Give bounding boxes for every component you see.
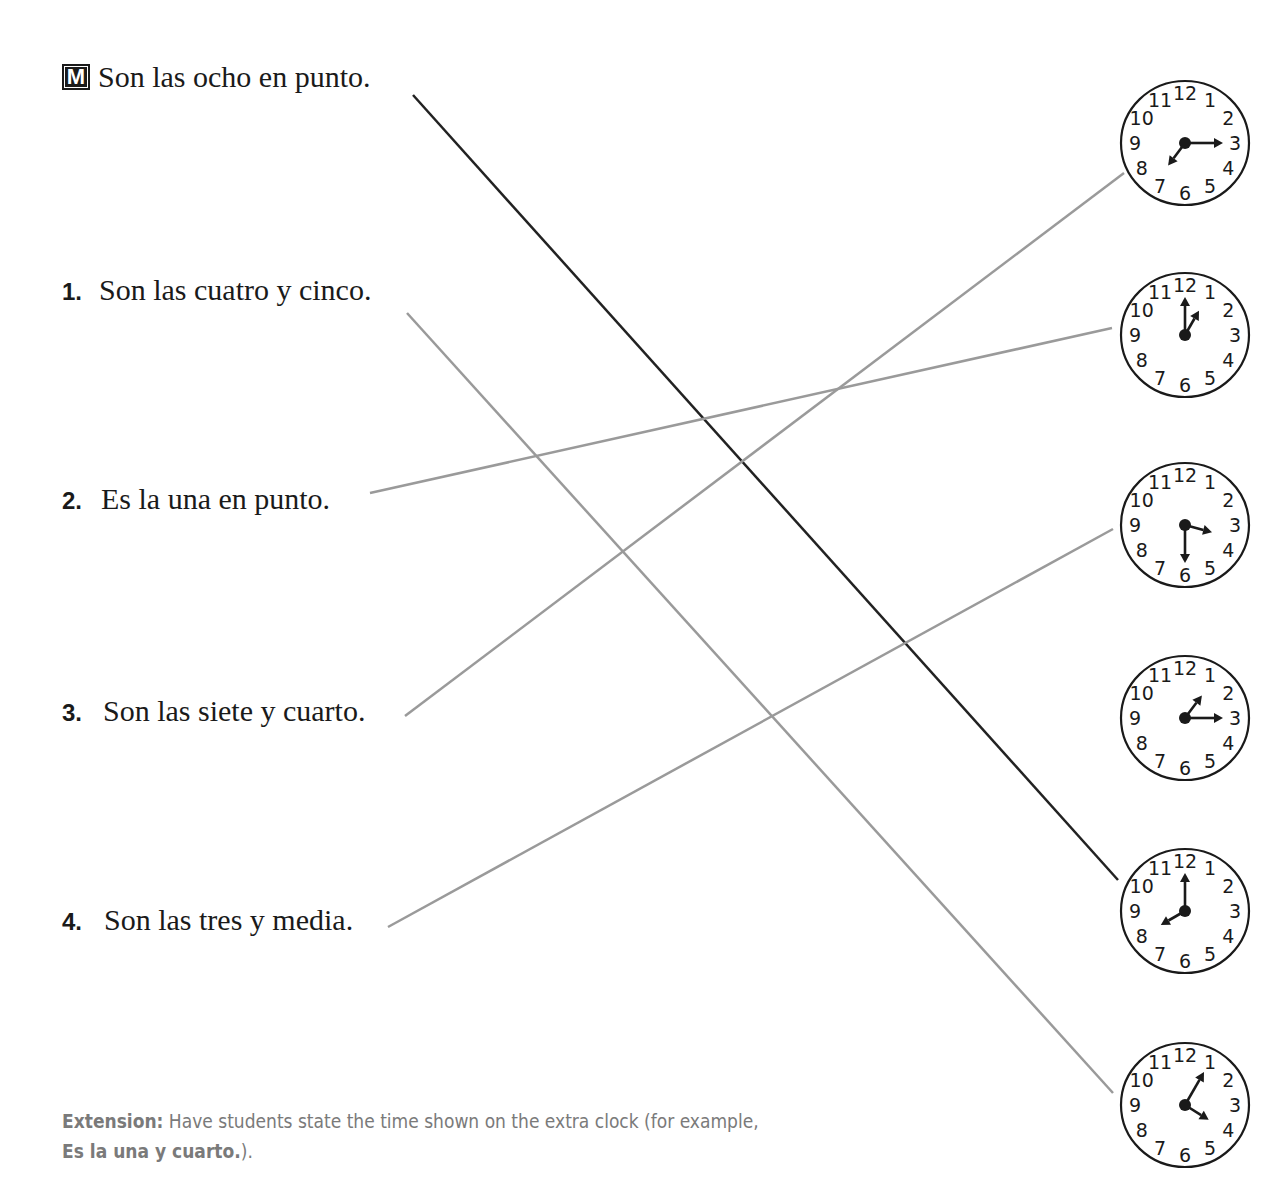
clock-6: 121234567891011 — [1115, 1035, 1255, 1175]
clock-1: 121234567891011 — [1115, 73, 1255, 213]
clock-numeral: 3 — [1229, 900, 1241, 922]
item-text: Es la una en punto. — [101, 482, 330, 516]
clock-numeral: 4 — [1222, 1119, 1234, 1141]
clock-numeral: 6 — [1179, 182, 1191, 204]
answer-lines — [0, 0, 1286, 1182]
clock-numeral: 11 — [1148, 471, 1172, 493]
item-text: Son las tres y media. — [104, 903, 353, 937]
clock-numeral: 1 — [1204, 857, 1216, 879]
extension-example: Es la una y cuarto. — [62, 1140, 241, 1162]
item-number: 1. — [62, 278, 82, 306]
clock-numeral: 1 — [1204, 664, 1216, 686]
clock-numeral: 7 — [1154, 943, 1166, 965]
clock-numeral: 8 — [1136, 349, 1148, 371]
line-model-to-clock-5 — [413, 95, 1118, 880]
clock-numeral: 6 — [1179, 374, 1191, 396]
extension-text: Have students state the time shown on th… — [163, 1110, 758, 1132]
line-item-4-to-clock-3 — [388, 529, 1113, 927]
clock-numeral: 8 — [1136, 157, 1148, 179]
item-text: Son las siete y cuarto. — [103, 694, 365, 728]
clock-numeral: 11 — [1148, 664, 1172, 686]
clock-numeral: 1 — [1204, 281, 1216, 303]
clock-numeral: 8 — [1136, 539, 1148, 561]
model-sentence: Son las ocho en punto. — [98, 60, 370, 94]
clock-numeral: 9 — [1129, 1094, 1141, 1116]
clock-numeral: 12 — [1173, 1044, 1197, 1066]
clock-numeral: 2 — [1222, 489, 1234, 511]
clock-numeral: 5 — [1204, 1137, 1216, 1159]
clock-numeral: 6 — [1179, 564, 1191, 586]
clock-numeral: 12 — [1173, 850, 1197, 872]
clock-center — [1179, 712, 1191, 724]
clock-numeral: 12 — [1173, 82, 1197, 104]
line-item-3-to-clock-1 — [405, 173, 1124, 716]
clock-numeral: 5 — [1204, 750, 1216, 772]
clock-numeral: 2 — [1222, 299, 1234, 321]
item-number: 4. — [62, 908, 82, 936]
clock-numeral: 7 — [1154, 1137, 1166, 1159]
clock-numeral: 9 — [1129, 514, 1141, 536]
clock-numeral: 6 — [1179, 950, 1191, 972]
clock-numeral: 9 — [1129, 132, 1141, 154]
clock-numeral: 12 — [1173, 657, 1197, 679]
clock-numeral: 4 — [1222, 925, 1234, 947]
clock-numeral: 2 — [1222, 1069, 1234, 1091]
clock-numeral: 7 — [1154, 557, 1166, 579]
clock-numeral: 5 — [1204, 943, 1216, 965]
clock-numeral: 3 — [1229, 132, 1241, 154]
clock-numeral: 9 — [1129, 324, 1141, 346]
clock-center — [1179, 519, 1191, 531]
clock-numeral: 4 — [1222, 157, 1234, 179]
clock-numeral: 12 — [1173, 274, 1197, 296]
clock-numeral: 5 — [1204, 175, 1216, 197]
clock-4: 121234567891011 — [1115, 648, 1255, 788]
clock-numeral: 3 — [1229, 707, 1241, 729]
clock-numeral: 9 — [1129, 900, 1141, 922]
clock-numeral: 2 — [1222, 107, 1234, 129]
clock-numeral: 6 — [1179, 757, 1191, 779]
clock-numeral: 7 — [1154, 750, 1166, 772]
clock-numeral: 7 — [1154, 175, 1166, 197]
clock-numeral: 3 — [1229, 1094, 1241, 1116]
clock-numeral: 6 — [1179, 1144, 1191, 1166]
clock-numeral: 4 — [1222, 349, 1234, 371]
model-text: Son las ocho en punto. — [98, 60, 370, 93]
clock-numeral: 7 — [1154, 367, 1166, 389]
clock-numeral: 1 — [1204, 471, 1216, 493]
clock-2: 121234567891011 — [1115, 265, 1255, 405]
clock-center — [1179, 137, 1191, 149]
model-badge: M — [62, 64, 90, 90]
extension-note: Extension: Have students state the time … — [62, 1106, 942, 1166]
clock-5: 121234567891011 — [1115, 841, 1255, 981]
clock-numeral: 1 — [1204, 1051, 1216, 1073]
extension-closing: ). — [241, 1140, 253, 1162]
clock-center — [1179, 1099, 1191, 1111]
clock-numeral: 11 — [1148, 281, 1172, 303]
item-number: 2. — [62, 487, 82, 515]
clock-numeral: 12 — [1173, 464, 1197, 486]
clock-numeral: 9 — [1129, 707, 1141, 729]
clock-center — [1179, 329, 1191, 341]
clock-numeral: 11 — [1148, 1051, 1172, 1073]
clock-numeral: 4 — [1222, 732, 1234, 754]
clock-numeral: 3 — [1229, 514, 1241, 536]
clock-numeral: 1 — [1204, 89, 1216, 111]
clock-numeral: 5 — [1204, 367, 1216, 389]
line-item-2-to-clock-2 — [370, 328, 1112, 493]
clock-center — [1179, 905, 1191, 917]
clock-numeral: 4 — [1222, 539, 1234, 561]
clock-numeral: 8 — [1136, 732, 1148, 754]
clock-numeral: 3 — [1229, 324, 1241, 346]
clock-numeral: 8 — [1136, 1119, 1148, 1141]
clock-numeral: 2 — [1222, 875, 1234, 897]
item-text: Son las cuatro y cinco. — [99, 273, 371, 307]
extension-label: Extension: — [62, 1110, 163, 1132]
clock-numeral: 11 — [1148, 857, 1172, 879]
clock-3: 121234567891011 — [1115, 455, 1255, 595]
line-item-1-to-clock-6 — [407, 313, 1113, 1093]
item-number: 3. — [62, 699, 82, 727]
clock-numeral: 11 — [1148, 89, 1172, 111]
clock-numeral: 8 — [1136, 925, 1148, 947]
clock-numeral: 2 — [1222, 682, 1234, 704]
clock-numeral: 5 — [1204, 557, 1216, 579]
